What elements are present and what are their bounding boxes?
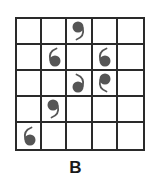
grid-cell-r2-c4 [118,71,143,97]
puzzle-grid [15,17,145,151]
grid-cell-r1-c1 [42,45,67,71]
grid-cell-r1-c0 [17,45,42,71]
grid-cell-r3-c3 [93,97,118,123]
grid-cell-r0-c4 [118,19,143,45]
grid-cell-r3-c2 [67,97,92,123]
comma-glyph-icon [46,47,62,67]
grid-cell-r2-c3 [93,71,118,97]
comma-glyph-icon [46,99,62,119]
grid-cell-r1-c2 [67,45,92,71]
grid-cell-r0-c3 [93,19,118,45]
grid-cell-r0-c0 [17,19,42,45]
comma-glyph-icon [96,47,112,67]
comma-glyph-icon [96,73,112,93]
grid-cell-r3-c0 [17,97,42,123]
grid-cell-r2-c1 [42,71,67,97]
comma-glyph-icon [71,73,87,93]
grid-cell-r3-c1 [42,97,67,123]
grid-cell-r4-c1 [42,123,67,149]
comma-glyph-icon [71,21,87,41]
grid-cell-r0-c1 [42,19,67,45]
grid-cell-r1-c4 [118,45,143,71]
grid-cell-r2-c2 [67,71,92,97]
grid-cell-r4-c0 [17,123,42,149]
comma-glyph-icon [21,126,37,146]
grid-cell-r4-c4 [118,123,143,149]
grid-cell-r3-c4 [118,97,143,123]
figure-label: B [0,158,151,178]
grid-cell-r1-c3 [93,45,118,71]
grid-cell-r4-c2 [67,123,92,149]
grid-cell-r2-c0 [17,71,42,97]
grid-cell-r4-c3 [93,123,118,149]
grid-cell-r0-c2 [67,19,92,45]
